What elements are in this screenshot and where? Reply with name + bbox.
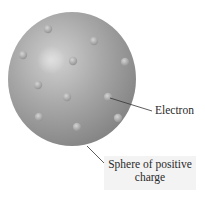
electron-dot (19, 51, 27, 59)
electron-dot (34, 81, 42, 89)
electron-dot (73, 123, 81, 131)
sphere-label-line1: Sphere of positive (104, 158, 196, 171)
electron-dot (69, 57, 77, 65)
sphere-label: Sphere of positive charge (104, 158, 196, 184)
electron-dot (90, 37, 98, 45)
electron-dot (35, 113, 43, 121)
positive-sphere (8, 12, 136, 146)
electron-dot (44, 25, 52, 33)
electron-dot (121, 58, 129, 66)
electron-label: Electron (155, 104, 194, 117)
sphere-highlight (37, 46, 65, 74)
sphere-label-line2: charge (104, 171, 196, 184)
electron-dot (104, 93, 112, 101)
electron-dot (63, 93, 71, 101)
electron-dot (114, 114, 122, 122)
